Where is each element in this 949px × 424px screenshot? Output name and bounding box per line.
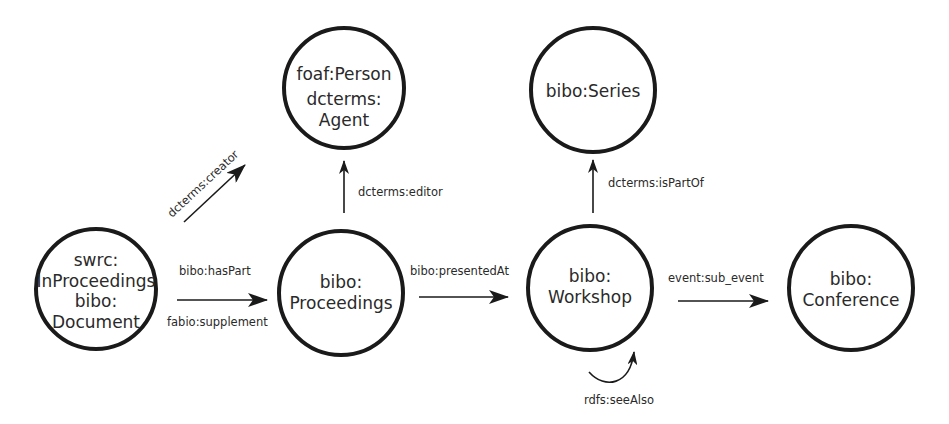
node-conference-line-2: Conference: [802, 290, 899, 310]
node-document-line-1: swrc:: [74, 250, 118, 270]
node-series-line-1: bibo:Series: [546, 81, 641, 101]
edge-haspart: bibo:hasPart fabio:supplement: [167, 264, 268, 329]
node-document-line-2: InProceedings: [37, 271, 156, 291]
node-conference: bibo: Conference: [789, 226, 913, 350]
node-workshop: bibo: Workshop: [528, 226, 652, 350]
node-document-line-4: Document: [52, 312, 140, 332]
edge-editor-label: dcterms:editor: [358, 185, 443, 199]
edge-creator-label: dcterms:creator: [164, 147, 241, 220]
edge-subevent: event:sub_event: [668, 271, 768, 301]
node-workshop-line-2: Workshop: [548, 287, 632, 307]
node-person: foaf:Person dcterms: Agent: [284, 28, 404, 148]
edge-presentedat: bibo:presentedAt: [410, 264, 509, 297]
edge-haspart-label: bibo:hasPart: [179, 264, 251, 278]
node-proceedings-line-2: Proceedings: [289, 293, 392, 313]
node-conference-line-1: bibo:: [830, 269, 872, 289]
edge-ispartof-label: dcterms:isPartOf: [608, 176, 705, 190]
edge-ispartof: dcterms:isPartOf: [593, 160, 705, 213]
edge-subevent-label: event:sub_event: [668, 271, 764, 285]
edge-seealso-label: rdfs:seeAlso: [584, 393, 654, 407]
rdf-diagram: swrc: InProceedings bibo: Document foaf:…: [0, 0, 949, 424]
node-person-circle: [284, 28, 404, 148]
node-document-line-3: bibo:: [75, 291, 117, 311]
node-person-line-2: dcterms:: [306, 89, 381, 109]
edge-presentedat-label: bibo:presentedAt: [410, 264, 509, 278]
node-series: bibo:Series: [531, 28, 655, 152]
node-person-line-1: foaf:Person: [296, 64, 391, 84]
node-proceedings: bibo: Proceedings: [279, 231, 403, 355]
edge-creator: dcterms:creator: [164, 147, 245, 222]
arrow-seealso-icon: [589, 352, 634, 382]
node-proceedings-line-1: bibo:: [320, 272, 362, 292]
edge-editor: dcterms:editor: [344, 161, 443, 213]
edge-supplement-label: fabio:supplement: [167, 315, 268, 329]
node-person-line-3: Agent: [319, 110, 370, 130]
node-document: swrc: InProceedings bibo: Document: [36, 229, 156, 349]
node-workshop-line-1: bibo:: [569, 266, 611, 286]
edge-seealso: rdfs:seeAlso: [584, 352, 654, 407]
